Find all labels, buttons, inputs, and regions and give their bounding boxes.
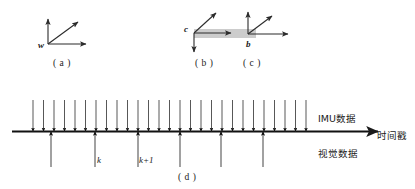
imu-tick-group [33, 100, 306, 132]
caption-a: ( a ) [53, 58, 71, 68]
caption-c: ( c ) [243, 58, 261, 68]
timeline-tick-label-k-plus-1: k+1 [139, 155, 154, 165]
visual-tick-group [51, 132, 263, 168]
caption-b: ( b ) [195, 58, 213, 68]
caption-d: ( d ) [178, 172, 196, 182]
frame-a-axes [48, 19, 86, 44]
timeline-tick-label-k: k [97, 155, 101, 165]
frame-c-axis-diagonal [248, 16, 272, 34]
figure-canvas [0, 0, 415, 189]
frame-b-axes [194, 13, 231, 52]
frame-a-axis-diagonal [48, 22, 78, 44]
visual-data-label: 视觉数据 [318, 146, 358, 160]
frame-b-label-c: c [184, 24, 188, 34]
imu-data-label: IMU数据 [318, 111, 356, 125]
frame-c-label-b: b [246, 39, 251, 49]
timestamp-axis-label: 时间戳 [377, 128, 407, 142]
frame-a-label-w: w [38, 40, 44, 50]
figure-root: w c b ( a ) ( b ) ( c ) ( d ) k k+1 IMU数… [0, 0, 415, 189]
